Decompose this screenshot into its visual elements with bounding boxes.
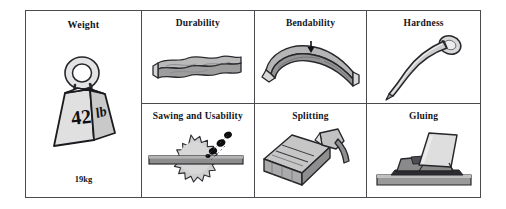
bendability-illustration bbox=[255, 29, 367, 103]
cell-hardness: Hardness bbox=[367, 11, 480, 104]
cell-title-splitting: Splitting bbox=[292, 111, 329, 122]
wooden-plank-icon bbox=[148, 43, 248, 89]
cell-bendability: Bendability bbox=[255, 11, 368, 104]
log-and-axe-icon bbox=[258, 127, 362, 193]
cell-title-sawing: Sawing and Usability bbox=[153, 111, 243, 122]
cell-gluing: Gluing bbox=[367, 104, 480, 197]
cell-title-gluing: Gluing bbox=[409, 111, 438, 122]
weight-caption: 19kg bbox=[26, 174, 141, 184]
weight-value-number: 42 bbox=[69, 105, 92, 129]
properties-grid: Durability Bendability bbox=[142, 11, 480, 197]
hardness-illustration bbox=[367, 29, 480, 103]
glued-boards-icon bbox=[371, 129, 477, 191]
splitting-illustration bbox=[255, 122, 367, 197]
weight-illustration: 42 lb bbox=[26, 30, 141, 174]
cell-splitting: Splitting bbox=[255, 104, 368, 197]
cell-sawing: Sawing and Usability bbox=[142, 104, 255, 197]
sawing-illustration bbox=[142, 122, 254, 197]
durability-illustration bbox=[142, 29, 254, 103]
bent-nail-icon bbox=[378, 31, 470, 101]
bent-beam-with-arrow-icon bbox=[258, 40, 362, 92]
cell-title-weight: Weight bbox=[26, 19, 141, 30]
wood-properties-chart: Weight 42 lb 19kg bbox=[25, 10, 481, 198]
cell-weight: Weight 42 lb 19kg bbox=[26, 11, 142, 197]
circular-saw-blade-icon bbox=[145, 129, 251, 191]
gluing-illustration bbox=[367, 122, 480, 197]
cell-title-durability: Durability bbox=[176, 18, 220, 29]
cell-title-hardness: Hardness bbox=[404, 18, 444, 29]
cell-title-bendability: Bendability bbox=[286, 18, 335, 29]
weight-block-icon: 42 lb bbox=[34, 47, 134, 157]
cell-durability: Durability bbox=[142, 11, 255, 104]
